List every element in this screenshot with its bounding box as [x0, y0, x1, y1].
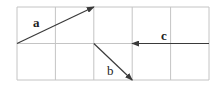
vector-label: b	[107, 63, 114, 78]
vector-label: c	[161, 28, 167, 43]
vector-grid-diagram: abc	[0, 0, 217, 86]
vector-label: a	[33, 15, 40, 30]
vector-b: b	[94, 44, 132, 81]
